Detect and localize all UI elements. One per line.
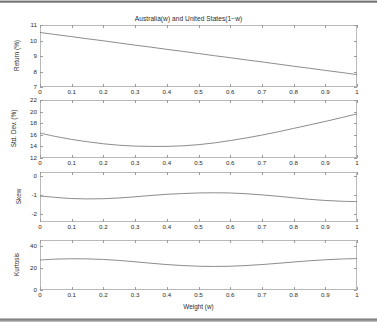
y-tick-mark xyxy=(354,176,357,177)
x-tick-label: 0.3 xyxy=(131,292,140,298)
x-tick-mark xyxy=(135,155,136,158)
x-tick-mark xyxy=(325,155,326,158)
x-tick-mark xyxy=(262,287,263,290)
x-tick-mark xyxy=(325,240,326,243)
x-tick-label: 0.7 xyxy=(258,89,267,95)
x-tick-mark xyxy=(72,25,73,28)
x-tick-mark xyxy=(40,84,41,87)
x-tick-mark xyxy=(262,100,263,103)
x-tick-mark xyxy=(199,155,200,158)
x-tick-mark xyxy=(72,155,73,158)
y-tick-label: 16 xyxy=(30,132,37,138)
x-tick-mark xyxy=(199,172,200,175)
y-tick-mark xyxy=(40,41,43,42)
x-tick-mark xyxy=(357,155,358,158)
x-tick-label: 0.1 xyxy=(67,89,76,95)
y-tick-mark xyxy=(40,135,43,136)
curve-return xyxy=(40,25,357,87)
x-tick-label: 0.5 xyxy=(194,224,203,230)
x-tick-label: 0.2 xyxy=(99,160,108,166)
subplot-std-dev: 12141618202200.10.20.30.40.50.60.70.80.9… xyxy=(40,100,357,158)
x-tick-mark xyxy=(294,219,295,222)
x-tick-mark xyxy=(262,25,263,28)
x-tick-mark xyxy=(230,219,231,222)
x-tick-label: 0.8 xyxy=(289,160,298,166)
x-tick-mark xyxy=(103,219,104,222)
figure-bottom-border xyxy=(0,318,377,322)
x-tick-mark xyxy=(325,172,326,175)
x-tick-mark xyxy=(72,219,73,222)
y-tick-mark xyxy=(40,268,43,269)
x-tick-mark xyxy=(294,100,295,103)
y-tick-label: 11 xyxy=(31,22,37,28)
x-tick-mark xyxy=(72,100,73,103)
y-tick-mark xyxy=(354,195,357,196)
x-tick-mark xyxy=(167,219,168,222)
y-tick-mark xyxy=(40,176,43,177)
y-tick-mark xyxy=(354,72,357,73)
y-tick-mark xyxy=(40,112,43,113)
x-tick-mark xyxy=(135,25,136,28)
x-tick-mark xyxy=(40,287,41,290)
x-tick-mark xyxy=(230,287,231,290)
x-tick-label: 0.7 xyxy=(258,160,267,166)
x-tick-label: 0.4 xyxy=(162,292,171,298)
figure-title: Australia(w) and United States(1−w) xyxy=(0,15,377,22)
x-tick-label: 0.6 xyxy=(226,89,235,95)
x-tick-mark xyxy=(135,84,136,87)
x-tick-mark xyxy=(72,287,73,290)
y-tick-label: 20 xyxy=(30,108,37,114)
y-tick-mark xyxy=(354,135,357,136)
x-tick-label: 0.7 xyxy=(258,292,267,298)
x-tick-mark xyxy=(103,155,104,158)
x-tick-mark xyxy=(357,100,358,103)
x-tick-mark xyxy=(167,155,168,158)
y-axis-label: Std. Dev. (%) xyxy=(10,100,17,158)
y-tick-label: 8 xyxy=(34,68,37,74)
y-tick-mark xyxy=(354,56,357,57)
x-tick-label: 0.2 xyxy=(99,224,108,230)
x-tick-label: 0.4 xyxy=(162,160,171,166)
x-tick-mark xyxy=(199,25,200,28)
y-tick-label: 20 xyxy=(30,265,37,271)
y-tick-label: -2 xyxy=(31,211,37,217)
x-tick-label: 0.5 xyxy=(194,292,203,298)
x-tick-label: 0.1 xyxy=(67,160,76,166)
x-tick-label: 0.5 xyxy=(194,160,203,166)
y-tick-mark xyxy=(40,146,43,147)
x-tick-label: 0.3 xyxy=(131,89,140,95)
x-tick-mark xyxy=(357,240,358,243)
x-tick-label: 0.8 xyxy=(289,292,298,298)
x-tick-mark xyxy=(230,100,231,103)
x-tick-mark xyxy=(325,25,326,28)
x-tick-mark xyxy=(199,240,200,243)
y-tick-mark xyxy=(40,195,43,196)
y-tick-mark xyxy=(354,146,357,147)
x-tick-label: 1 xyxy=(355,292,358,298)
y-tick-label: 12 xyxy=(30,155,37,161)
x-tick-mark xyxy=(357,25,358,28)
x-tick-mark xyxy=(103,287,104,290)
matlab-figure: Australia(w) and United States(1−w) 7891… xyxy=(0,0,377,322)
y-tick-mark xyxy=(40,214,43,215)
x-tick-mark xyxy=(40,172,41,175)
y-tick-mark xyxy=(354,123,357,124)
x-tick-mark xyxy=(103,172,104,175)
x-tick-mark xyxy=(40,155,41,158)
curve-skew xyxy=(40,172,357,222)
x-tick-mark xyxy=(167,100,168,103)
x-tick-mark xyxy=(40,25,41,28)
x-tick-mark xyxy=(199,100,200,103)
x-tick-label: 0.9 xyxy=(321,160,330,166)
x-tick-mark xyxy=(262,84,263,87)
x-tick-mark xyxy=(167,25,168,28)
x-tick-mark xyxy=(103,100,104,103)
x-tick-label: 0.9 xyxy=(321,292,330,298)
x-tick-mark xyxy=(230,240,231,243)
x-tick-mark xyxy=(199,287,200,290)
x-tick-mark xyxy=(167,84,168,87)
x-tick-label: 0.4 xyxy=(162,224,171,230)
y-tick-label: 7 xyxy=(34,84,37,90)
x-tick-label: 0.7 xyxy=(258,224,267,230)
y-tick-label: 14 xyxy=(30,143,37,149)
